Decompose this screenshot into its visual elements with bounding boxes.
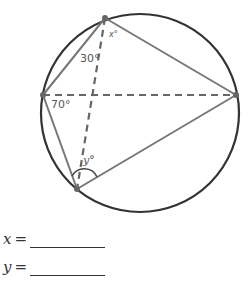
answer-x-equals: = — [14, 230, 27, 248]
angle-arc-y — [72, 169, 97, 177]
answer-x-blank[interactable] — [30, 233, 105, 248]
inscribed-quadrilateral-diagram: x° 30° 70° y° — [0, 0, 252, 230]
label-70-angle: 70° — [51, 98, 71, 111]
vertex-bottom — [74, 186, 80, 192]
side-top-right — [105, 18, 236, 95]
label-y-angle: y° — [82, 154, 95, 167]
answer-x-variable: x — [3, 230, 11, 248]
answer-y-equals: = — [14, 258, 27, 276]
label-30-angle: 30° — [80, 52, 100, 65]
side-bottom-right — [77, 95, 236, 189]
circle — [41, 14, 239, 212]
vertex-top — [102, 15, 108, 21]
vertex-right — [233, 92, 239, 98]
answer-x: x = — [3, 230, 105, 248]
answer-y: y = — [3, 258, 105, 276]
answer-y-blank[interactable] — [30, 261, 105, 276]
label-x-angle: x° — [108, 30, 118, 39]
answer-y-variable: y — [3, 258, 11, 276]
vertex-left — [40, 92, 46, 98]
